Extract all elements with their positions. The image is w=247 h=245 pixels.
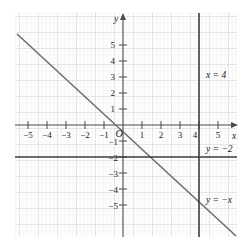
y-tick-label: 4 bbox=[111, 56, 116, 66]
origin-label: O bbox=[115, 128, 122, 139]
y-tick-label: 1 bbox=[111, 104, 116, 114]
x-tick-label: 4 bbox=[193, 130, 198, 140]
y-tick-label: −5 bbox=[108, 201, 118, 211]
y-tick-label: 5 bbox=[111, 40, 116, 50]
x-tick-label: 2 bbox=[159, 130, 164, 140]
x-tick-label: −1 bbox=[99, 130, 109, 140]
x-tick-label: −5 bbox=[23, 130, 33, 140]
y-tick-label: −3 bbox=[108, 169, 118, 179]
y-tick-label: 2 bbox=[111, 88, 116, 98]
x-tick-label: 3 bbox=[178, 130, 183, 140]
y-tick-label: 3 bbox=[111, 72, 116, 82]
x-tick-label: −3 bbox=[61, 130, 71, 140]
y-tick-label: −2 bbox=[108, 153, 118, 163]
x-axis-label: x bbox=[231, 131, 237, 141]
y-axis-label: y bbox=[113, 14, 119, 24]
equation-label-y-equals-minus-x: y = −x bbox=[205, 195, 233, 205]
equation-label-x-equals-4: x = 4 bbox=[205, 70, 226, 80]
y-tick-label: −4 bbox=[108, 185, 118, 195]
x-tick-label: 1 bbox=[140, 130, 145, 140]
equation-label-y-equals-minus-2: y = −2 bbox=[205, 144, 233, 154]
figure-container: a bbox=[0, 0, 247, 245]
x-tick-label: −2 bbox=[80, 130, 90, 140]
x-tick-label: −4 bbox=[42, 130, 52, 140]
x-tick-label: 5 bbox=[216, 130, 221, 140]
coordinate-graph: −5 −4 −3 −2 −1 1 2 3 4 5 5 4 3 2 1 −1 −2… bbox=[0, 0, 247, 245]
